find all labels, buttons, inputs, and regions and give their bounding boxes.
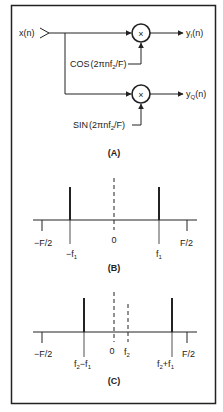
f2-minus-f1-label: f2−f1	[74, 359, 92, 370]
pos-half-fs-label: F/2	[180, 238, 193, 248]
figure: x(n) × yI(n) COS(2πnf2/F) × yQ	[0, 0, 223, 412]
panel-c-spectrum: −F/2 F/2 f2−f1 0 f2 f2+f1 (C)	[33, 292, 197, 386]
f2-plus-f1-label: f2+f1	[157, 359, 175, 370]
zero-label: 0	[111, 235, 116, 245]
mixer-q: × yQ(n) SIN(2πnf2/F)	[73, 85, 206, 131]
cos-lo-label: COS(2πnf2/F)	[70, 59, 127, 70]
panel-a-block-diagram: x(n) × yI(n) COS(2πnf2/F) × yQ	[19, 24, 206, 158]
svg-text:×: ×	[138, 90, 143, 100]
f2-label: f2	[124, 347, 131, 358]
caption-b: (B)	[108, 263, 121, 273]
output-q-label: yQ(n)	[186, 89, 206, 100]
svg-text:×: ×	[138, 29, 143, 39]
caption-c: (C)	[108, 376, 121, 386]
sin-lo-label: SIN(2πnf2/F)	[73, 120, 125, 131]
panel-b-spectrum: −F/2 F/2 −f1 0 f1 (B)	[33, 178, 197, 273]
neg-f1-label: −f1	[66, 249, 78, 260]
caption-a: (A)	[108, 148, 121, 158]
zero-label: 0	[109, 346, 114, 356]
neg-half-fs-label: −F/2	[34, 349, 52, 359]
pos-half-fs-label: F/2	[182, 349, 195, 359]
input-label: x(n)	[19, 28, 35, 38]
output-i-label: yI(n)	[186, 28, 203, 39]
mixer-i: × yI(n) COS(2πnf2/F)	[70, 24, 203, 70]
f1-label: f1	[156, 249, 163, 260]
input-chevron-icon	[40, 28, 49, 38]
neg-half-fs-label: −F/2	[34, 238, 52, 248]
